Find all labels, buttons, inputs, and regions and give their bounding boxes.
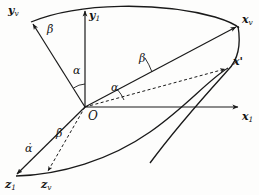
rotation-axes-figure: yv y1 xv x1 z1 zv x' O α β α β̇ α̇ β̇: [0, 0, 259, 195]
angle-label-beta-mid: β: [139, 53, 145, 64]
rate-label-beta-dot-upper: β̇: [47, 24, 53, 35]
point-label-x-prime: x': [233, 56, 243, 67]
axis-line-x-v: [85, 27, 236, 107]
axis-line-z-1: [17, 107, 85, 174]
axis-label-x-1: x1: [242, 111, 253, 124]
dashed-construction-lines: [48, 69, 225, 171]
axis-label-z-1: z1: [5, 179, 16, 192]
angle-label-alpha-upper: α: [73, 65, 80, 76]
arc-right-great-circle: [150, 26, 239, 163]
rate-label-alpha-dot-lower: α̇: [25, 143, 32, 154]
angle-arc-alpha-upper: [74, 84, 86, 88]
axis-line-z-v-dashed: [48, 107, 85, 171]
arc-lower-great-circle: [16, 68, 228, 176]
diagram-canvas: [0, 0, 259, 195]
arc-upper-great-circle: [31, 6, 239, 28]
axis-label-y-1: y1: [89, 10, 100, 23]
axis-label-z-v: zv: [41, 179, 52, 192]
angle-arc-beta-mid: [145, 58, 152, 72]
rate-label-beta-dot-lower: β̇: [56, 128, 62, 139]
line-origin-to-x-prime-dashed: [85, 69, 225, 107]
origin-label: O: [88, 110, 98, 122]
axis-label-x-v: xv: [242, 14, 253, 27]
axis-label-y-v: yv: [8, 5, 19, 18]
angle-label-alpha-lower: α: [111, 82, 118, 93]
